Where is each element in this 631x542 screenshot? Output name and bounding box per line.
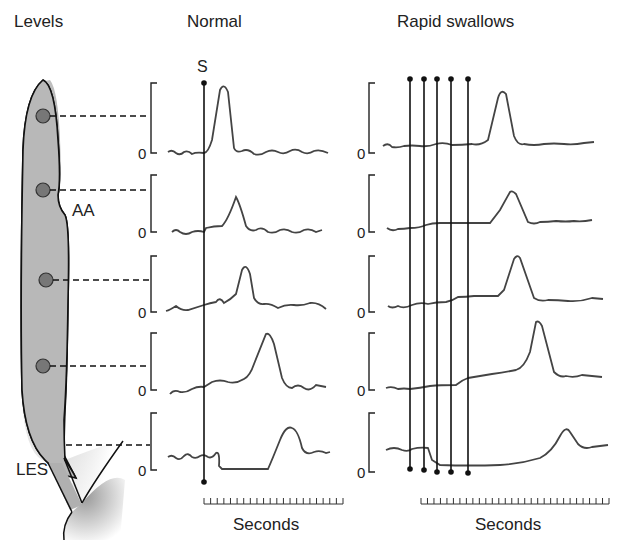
rapid-swallow-markers [410, 79, 468, 473]
normal-scale-brackets [151, 83, 157, 470]
normal-traces [166, 86, 330, 469]
svg-text:0: 0 [357, 382, 365, 399]
les-label: LES [16, 460, 48, 479]
normal-time-axis [204, 498, 343, 504]
rapid-seconds-label: Seconds [475, 515, 541, 534]
sensor-2-icon [36, 183, 50, 197]
sensor-1-icon [36, 109, 50, 123]
svg-text:0: 0 [138, 382, 146, 399]
swallow-s-label: S [197, 58, 208, 75]
normal-zero-labels: 0 0 0 0 0 [138, 145, 146, 479]
rapid-swallow-dots [407, 76, 471, 476]
sensor-4-icon [36, 359, 50, 373]
svg-text:0: 0 [357, 464, 365, 481]
rapid-zero-labels: 0 0 0 0 0 [357, 145, 365, 481]
normal-seconds-label: Seconds [233, 515, 299, 534]
svg-text:0: 0 [138, 462, 146, 479]
svg-text:0: 0 [357, 145, 365, 162]
svg-text:0: 0 [357, 304, 365, 321]
normal-swallow-marker: S [197, 58, 208, 485]
svg-text:0: 0 [138, 224, 146, 241]
sensor-3-icon [39, 273, 53, 287]
rapid-traces [383, 92, 608, 466]
aortic-arch-label: AA [72, 201, 95, 220]
manometry-diagram: AA LES 0 0 0 0 0 S Seconds [0, 0, 631, 542]
rapid-time-axis [421, 498, 609, 504]
svg-text:0: 0 [357, 224, 365, 241]
svg-text:0: 0 [138, 145, 146, 162]
rapid-scale-brackets [369, 83, 375, 472]
svg-text:0: 0 [138, 304, 146, 321]
